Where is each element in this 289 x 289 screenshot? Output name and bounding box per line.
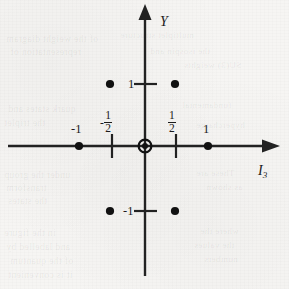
x-label-minus-one: -1 <box>71 123 81 136</box>
fraction-stack: 1 2 <box>104 110 112 134</box>
y-axis-arrowhead <box>139 4 152 20</box>
x-label-plus-one: 1 <box>203 123 209 136</box>
y-axis-label: Y <box>160 15 168 29</box>
data-point <box>171 207 179 215</box>
fraction-stack: 1 2 <box>168 110 176 134</box>
x-axis-label: I3 <box>258 164 267 180</box>
fraction-denominator: 2 <box>168 122 176 135</box>
fraction-denominator: 2 <box>104 122 112 135</box>
x-label-plus-half: 1 2 <box>168 110 176 134</box>
data-point <box>204 142 212 150</box>
data-point <box>106 80 114 88</box>
minus-sign: - <box>100 116 104 129</box>
x-axis-label-subscript: 3 <box>263 170 268 180</box>
fraction-numerator: 1 <box>168 110 176 122</box>
coordinate-plot <box>0 0 289 289</box>
origin-dot <box>142 143 148 149</box>
y-label-plus-one: 1 <box>128 78 134 91</box>
data-point <box>75 142 83 150</box>
x-axis-arrowhead <box>262 140 280 153</box>
figure-canvas: of the weight diagrammultiplet structure… <box>0 0 289 289</box>
y-label-minus-one: -1 <box>123 205 133 218</box>
data-point <box>106 207 114 215</box>
data-point <box>171 80 179 88</box>
x-label-minus-half: - 1 2 <box>100 110 112 134</box>
fraction-numerator: 1 <box>104 110 112 122</box>
